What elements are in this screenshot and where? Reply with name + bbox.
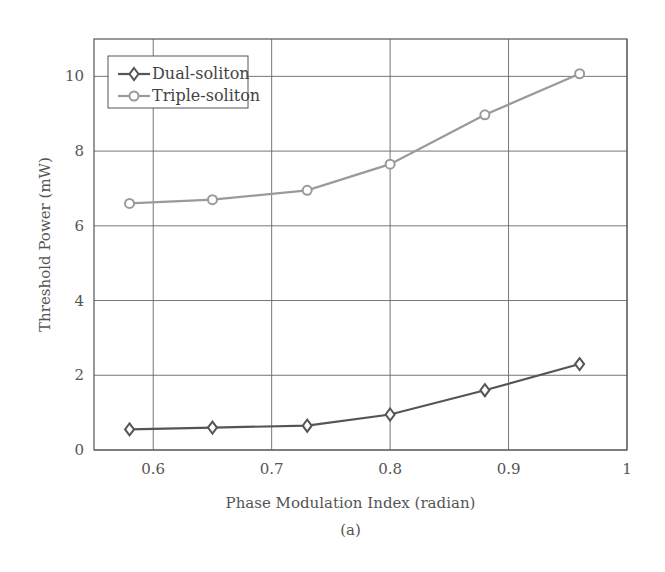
x-tick-label: 0.9	[497, 460, 521, 478]
diamond-marker	[575, 358, 584, 370]
figure-caption: (a)	[340, 521, 361, 539]
y-tick-label: 8	[74, 142, 84, 160]
diamond-marker	[208, 422, 217, 434]
legend-label: Dual-soliton	[152, 64, 250, 83]
series-dual-soliton	[125, 358, 584, 435]
diamond-marker	[386, 409, 395, 421]
line-chart: 0.60.70.80.91 0246810 Phase Modulation I…	[0, 0, 665, 572]
circle-marker	[386, 160, 395, 169]
series-line	[130, 364, 580, 429]
y-tick-label: 10	[65, 67, 84, 85]
x-tick-label: 0.7	[260, 460, 284, 478]
circle-marker	[303, 186, 312, 195]
y-tick-label: 2	[74, 366, 84, 384]
x-tick-label: 0.6	[141, 460, 165, 478]
y-axis-ticks: 0246810	[65, 67, 84, 459]
y-tick-label: 0	[74, 441, 84, 459]
diamond-marker	[480, 384, 489, 396]
circle-marker	[130, 92, 139, 101]
circle-marker	[208, 195, 217, 204]
diamond-marker	[303, 420, 312, 432]
circle-marker	[125, 199, 134, 208]
data-series	[125, 69, 584, 435]
y-tick-label: 6	[74, 217, 84, 235]
legend-label: Triple-soliton	[152, 86, 260, 105]
diamond-marker	[125, 423, 134, 435]
circle-marker	[575, 69, 584, 78]
circle-marker	[480, 110, 489, 119]
legend: Dual-solitonTriple-soliton	[108, 56, 260, 108]
x-axis-ticks: 0.60.70.80.91	[141, 460, 631, 478]
y-axis-label: Threshold Power (mW)	[36, 157, 54, 332]
y-tick-label: 4	[74, 292, 84, 310]
x-tick-label: 1	[622, 460, 632, 478]
x-tick-label: 0.8	[378, 460, 402, 478]
x-axis-label: Phase Modulation Index (radian)	[226, 494, 476, 512]
